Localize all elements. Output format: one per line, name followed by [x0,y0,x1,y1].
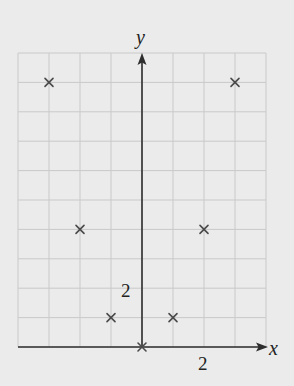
x-axis-label: x [268,337,278,359]
x-tick-label: 2 [198,353,208,374]
y-tick-label: 2 [121,280,131,301]
scatter-chart: x y 2 2 [0,0,294,386]
y-axis-label: y [134,26,145,49]
